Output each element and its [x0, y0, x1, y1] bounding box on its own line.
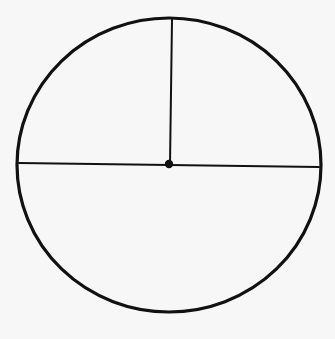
circle-diagram — [0, 0, 335, 339]
background — [0, 0, 335, 339]
center-point — [165, 160, 173, 168]
